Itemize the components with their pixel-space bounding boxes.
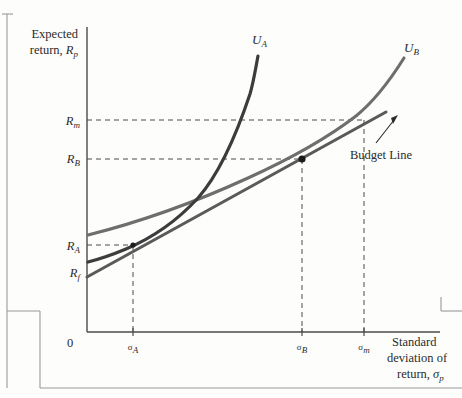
figure-canvas: Expected return, Rp Standard deviation o…	[0, 0, 462, 398]
origin-label: 0	[67, 336, 73, 350]
y-tick-Rm: Rm	[65, 114, 81, 130]
x-axis-label-line3: return, σp	[397, 367, 444, 383]
y-tick-Rm-sub: m	[74, 120, 81, 130]
y-tick-RA: RA	[66, 239, 81, 255]
x-axis-label-line1: Standard	[392, 335, 437, 349]
y-tick-RB-symbol: R	[66, 152, 75, 166]
y-axis-label-symbol-sub: p	[73, 49, 79, 59]
y-axis-label-line1: Expected	[31, 27, 78, 41]
x-axis-label-line3-text: return,	[397, 367, 433, 381]
budget-line-arrow	[376, 115, 398, 143]
curve-UB	[88, 58, 404, 235]
y-tick-RA-symbol: R	[66, 239, 75, 253]
x-axis-label-line2: deviation of	[387, 351, 448, 365]
budget-line-curve	[87, 112, 386, 277]
x-tick-sigmaB: σB	[297, 342, 308, 355]
diagram-svg: Expected return, Rp Standard deviation o…	[0, 0, 462, 398]
y-tick-Rf-symbol: R	[69, 266, 78, 280]
x-tick-sigmaA: σA	[128, 342, 139, 355]
budget-line-annotation: Budget Line	[350, 148, 413, 162]
y-tick-Rf-sub: f	[77, 272, 81, 282]
x-tick-sigmam-sub: m	[363, 345, 370, 355]
x-tick-sigmaA-sub: A	[132, 345, 139, 355]
curve-label-UB: UB	[404, 40, 419, 57]
y-axis-label-symbol: R	[65, 43, 74, 57]
y-tick-Rm-symbol: R	[65, 114, 74, 128]
curve-label-UB-sub: B	[413, 47, 419, 57]
y-tick-Rf: Rf	[69, 266, 82, 282]
x-tick-sigmaB-sub: B	[302, 345, 308, 355]
curve-label-UA: UA	[252, 32, 267, 49]
y-axis-label-line2-text: return,	[30, 43, 66, 57]
y-axis-label-line2: return, Rp	[30, 43, 79, 59]
y-tick-RA-sub: A	[74, 245, 81, 255]
point-B-dot	[298, 155, 305, 162]
point-A-dot	[130, 242, 135, 247]
x-axis-label-symbol-sub: p	[438, 373, 444, 383]
curve-label-UA-sub: A	[260, 39, 267, 49]
x-tick-sigmam: σm	[358, 342, 370, 355]
y-tick-RB-sub: B	[75, 158, 81, 168]
y-tick-RB: RB	[66, 152, 81, 168]
